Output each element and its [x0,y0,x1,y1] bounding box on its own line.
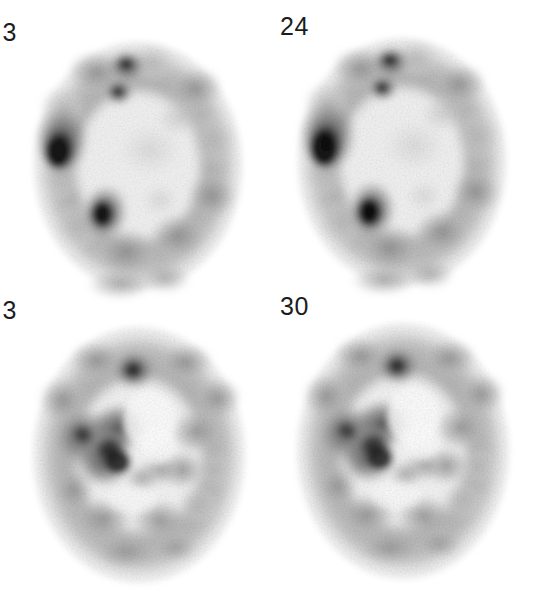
brain-slice-montage [0,0,546,601]
slice-label-top-right: 24 [280,14,309,39]
slice-label-bottom-right: 30 [280,294,309,319]
brain-slice-bottom-right [297,323,509,579]
slice-label-top-left: 3 [0,20,17,45]
brain-slice-bottom-left [33,327,245,583]
panel-bottom-right [297,323,509,579]
panel-bottom-left [33,327,245,583]
slice-label-bottom-left: 3 [0,298,17,323]
